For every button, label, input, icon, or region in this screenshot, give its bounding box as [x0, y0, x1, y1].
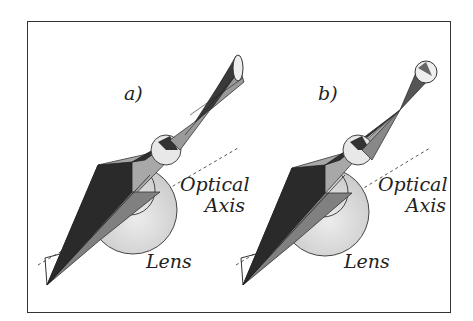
panel-a-lens-label: Lens	[146, 250, 192, 272]
panel-b-label: b)	[318, 82, 338, 104]
axis-label-line1: Optical	[180, 174, 245, 195]
panel-a-label: a)	[124, 82, 143, 104]
image-ellipse	[233, 55, 243, 81]
axis-label-line2: Axis	[378, 195, 446, 216]
panel-a-axis-label: Optical Axis	[180, 174, 245, 216]
axis-label-line1: Optical	[378, 174, 446, 195]
panel-b-lens-label: Lens	[344, 250, 390, 272]
panel-b-axis-label: Optical Axis	[378, 174, 446, 216]
diagram-canvas	[0, 0, 473, 321]
axis-label-line2: Axis	[180, 195, 245, 216]
